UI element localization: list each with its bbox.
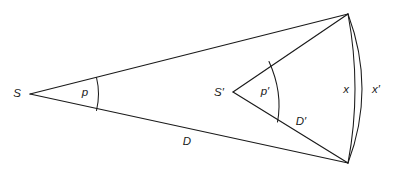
label-D-prime: D′ <box>296 115 307 127</box>
line-S-to-top-vertex <box>30 14 348 94</box>
label-p: p <box>81 86 89 98</box>
arc-x-inner <box>348 14 355 163</box>
line-Sprime-to-top-vertex <box>233 14 348 92</box>
label-x: x <box>342 83 350 95</box>
label-S: S <box>13 87 21 99</box>
label-p-prime: p′ <box>260 85 270 97</box>
label-x-prime: x′ <box>371 83 381 95</box>
line-S-to-bottom-vertex <box>30 94 348 163</box>
angle-arc-p-prime <box>269 62 279 123</box>
line-Sprime-to-bottom-vertex <box>233 92 348 163</box>
label-D: D <box>183 135 191 147</box>
label-S-prime: S′ <box>214 86 225 98</box>
parallax-diagram: S S′ p p′ D D′ x x′ <box>0 0 397 179</box>
diagram-canvas: S S′ p p′ D D′ x x′ <box>0 0 397 179</box>
angle-arc-p <box>97 78 99 111</box>
